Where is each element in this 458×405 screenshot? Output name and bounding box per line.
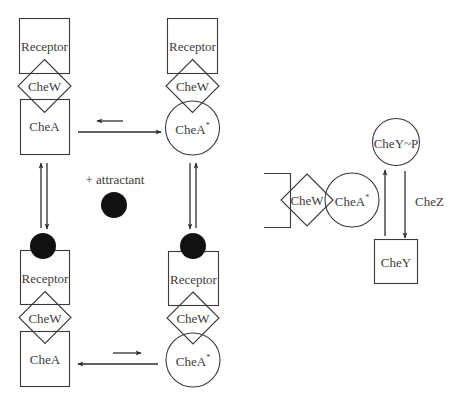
chew-label: CheW: [176, 79, 210, 94]
receptor-label: Receptor: [169, 39, 217, 54]
chea-label: CheA: [29, 119, 60, 134]
attractant-label: + attractant: [86, 172, 145, 187]
complex-top-right: Receptor CheW CheA*: [166, 19, 220, 156]
active-marker: *: [206, 121, 210, 130]
chea-text: CheA: [175, 122, 206, 137]
chew-label: CheW: [28, 79, 62, 94]
equilibrium-right: [190, 163, 196, 229]
bound-attractant: [30, 233, 56, 259]
kinase-complex: CheW CheA*: [264, 173, 379, 228]
chey-label: CheY: [381, 255, 412, 270]
attractant-molecule: [101, 192, 127, 218]
chew-label: CheW: [176, 311, 210, 326]
equilibrium-top: [78, 121, 161, 132]
chey-p-label: CheY~P: [374, 136, 419, 151]
chea-active-label: CheA*: [175, 121, 209, 137]
bound-attractant: [180, 233, 206, 259]
chez-label: CheZ: [415, 194, 444, 209]
chea-active-label: CheA*: [176, 353, 210, 369]
equilibrium-left: [41, 163, 47, 229]
chea-label: CheA: [30, 352, 61, 367]
chea-text: CheA: [335, 194, 366, 209]
chey-cycle: CheY~P CheZ CheY: [373, 119, 444, 284]
complex-top-left: Receptor CheW CheA: [18, 19, 71, 155]
equilibrium-bottom: [78, 353, 158, 364]
complex-bottom-left: Receptor CheW CheA: [19, 233, 71, 387]
receptor-label: Receptor: [170, 272, 218, 287]
active-marker: *: [365, 193, 369, 202]
chemotaxis-diagram: Receptor CheW CheA Receptor CheW CheA* +…: [0, 0, 458, 405]
chew-label: CheW: [290, 193, 324, 208]
complex-bottom-right: Receptor CheW CheA*: [166, 233, 220, 387]
chea-active-label: CheA*: [335, 193, 369, 209]
chea-text: CheA: [176, 354, 207, 369]
membrane-bracket: [264, 174, 291, 228]
active-marker: *: [206, 353, 210, 362]
receptor-label: Receptor: [22, 271, 70, 286]
receptor-label: Receptor: [21, 39, 69, 54]
chew-label: CheW: [28, 311, 62, 326]
